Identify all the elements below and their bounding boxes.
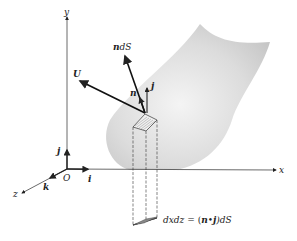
unit-k-label: k xyxy=(43,183,49,192)
eq-close: )dS xyxy=(216,215,231,225)
x-axis-label: x xyxy=(279,166,284,175)
origin-label: O xyxy=(63,174,70,183)
surface-projection-diagram xyxy=(0,0,297,241)
y-axis-label: y xyxy=(64,8,69,17)
vector-ndS-label: ndS xyxy=(113,43,131,52)
eq-sign: = xyxy=(187,215,195,225)
equation-label: dxdz = (n•j)dS xyxy=(163,216,232,225)
vector-n-label: n xyxy=(130,89,137,98)
x-axis xyxy=(67,169,276,170)
vector-U-label: U xyxy=(73,70,81,79)
eq-lhs: dxdz xyxy=(163,215,184,225)
unit-i-label: i xyxy=(88,175,91,184)
ndS-dS: dS xyxy=(120,42,132,52)
unit-j-label: j xyxy=(57,147,60,156)
z-axis-label: z xyxy=(13,190,18,199)
vector-j-surface-label: j xyxy=(151,82,154,91)
